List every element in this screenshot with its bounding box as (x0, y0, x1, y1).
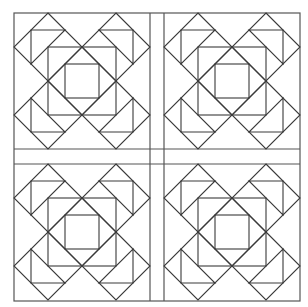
center-diamond (198, 47, 266, 115)
block-bottom-right (164, 164, 300, 300)
outer-border (14, 13, 300, 301)
quilt-blocks (14, 13, 300, 300)
inner-square (65, 64, 99, 98)
medium-square (198, 198, 266, 266)
medium-square (198, 47, 266, 115)
medium-square (48, 47, 116, 115)
center-diamond (48, 198, 116, 266)
medium-square (48, 198, 116, 266)
outer-frame (14, 13, 300, 301)
inner-square (65, 215, 99, 249)
inner-square (215, 215, 249, 249)
inner-square (215, 64, 249, 98)
block-bottom-left (14, 164, 150, 300)
center-diamond (48, 47, 116, 115)
quilt-pattern-diagram (0, 0, 308, 307)
center-diamond (198, 198, 266, 266)
block-top-right (164, 13, 300, 149)
block-top-left (14, 13, 150, 149)
sashing-strips (14, 13, 300, 301)
